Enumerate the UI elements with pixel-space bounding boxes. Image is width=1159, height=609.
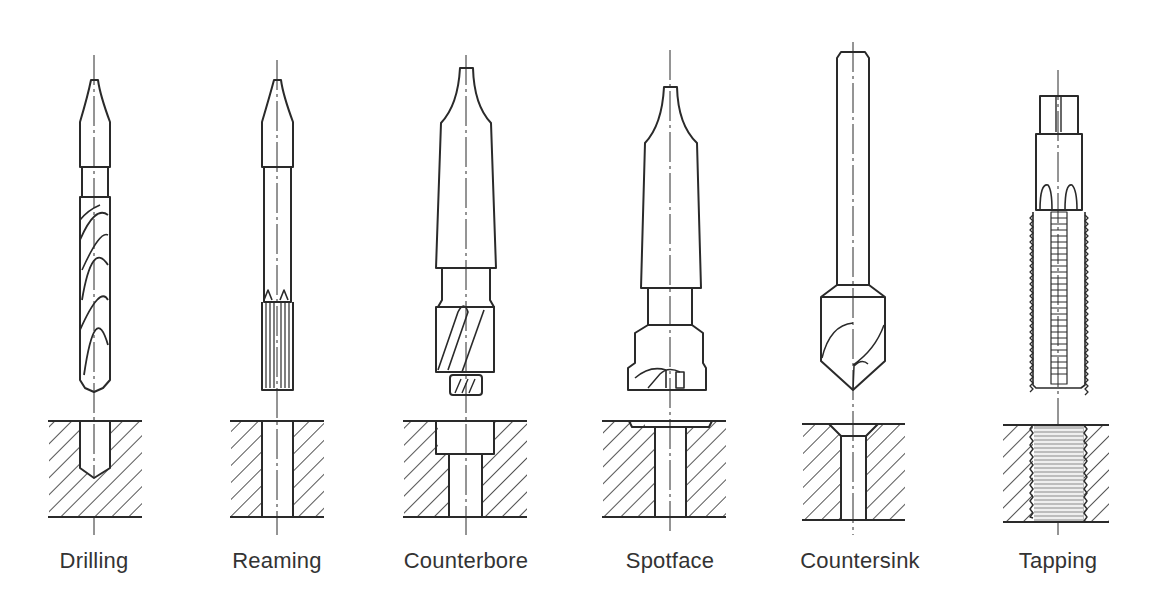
label-tapping: Tapping [1019, 548, 1097, 574]
tapping-workpiece [1003, 425, 1109, 522]
label-drilling: Drilling [60, 548, 129, 574]
label-spotface: Spotface [626, 548, 714, 574]
label-reaming: Reaming [232, 548, 321, 574]
drilling-workpiece [48, 421, 142, 517]
counterbore-workpiece [403, 421, 527, 517]
spotface-workpiece [602, 421, 726, 517]
label-counterbore: Counterbore [404, 548, 529, 574]
reaming-tool [262, 60, 293, 535]
label-countersink: Countersink [800, 548, 920, 574]
diagram-canvas [0, 0, 1159, 609]
drilling-tool [80, 55, 110, 535]
